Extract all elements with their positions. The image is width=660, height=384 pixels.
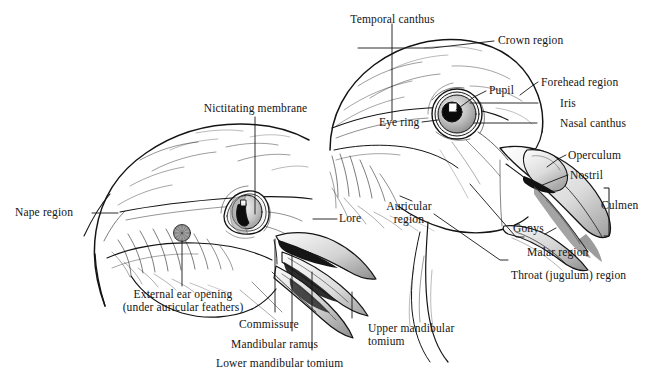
label-mandibular-ramus: Mandibular ramus (231, 338, 318, 351)
label-iris: Iris (560, 97, 576, 110)
label-upper-mandibular-tomium-line2: tomium (368, 335, 405, 348)
label-nape-region: Nape region (15, 206, 73, 219)
label-temporal-canthus: Temporal canthus (320, 13, 465, 26)
label-culmen: Culmen (601, 199, 638, 212)
label-upper-mandibular-tomium-line1: Upper mandibular (368, 322, 454, 335)
label-crown-region: Crown region (498, 34, 563, 47)
label-nostril: Nostril (570, 169, 603, 182)
label-external-ear-opening-line2: (under auricular feathers) (63, 301, 303, 314)
label-pupil: Pupil (489, 84, 514, 97)
label-auricular-region-line1: Auricular (378, 200, 440, 213)
left-eye (221, 186, 270, 238)
anatomical-figure: Nictitating membrane Nape region Externa… (0, 0, 660, 384)
external-ear-opening-mark (174, 225, 191, 242)
label-lower-mandibular-tomium: Lower mandibular tomium (216, 357, 343, 370)
bird-head-illustration (0, 0, 660, 384)
label-nictitating-membrane: Nictitating membrane (168, 102, 343, 115)
right-eye (428, 83, 485, 140)
label-external-ear-opening-line1: External ear opening (78, 288, 288, 301)
label-eye-ring: Eye ring (379, 116, 419, 129)
label-malar-region: Malar region (527, 246, 589, 259)
label-forehead-region: Forehead region (541, 76, 618, 89)
label-gonys: Gonys (513, 222, 544, 235)
label-nasal-canthus: Nasal canthus (560, 117, 626, 130)
label-operculum: Operculum (568, 149, 621, 162)
label-lore: Lore (339, 212, 361, 225)
label-throat-jugulum-region: Throat (jugulum) region (511, 269, 626, 282)
label-auricular-region-line2: region (378, 213, 440, 226)
label-commissure: Commissure (239, 318, 299, 331)
